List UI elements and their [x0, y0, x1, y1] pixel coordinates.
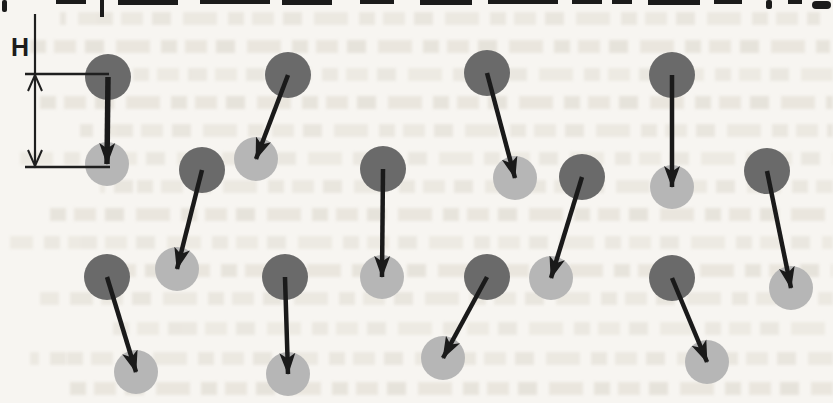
cropped-text-fragments — [2, 0, 831, 17]
particle-settling-diagram: H — [0, 0, 833, 403]
height-label: H — [11, 33, 29, 61]
displacement-arrow — [382, 169, 383, 277]
scanned-book-figure: H — [0, 0, 833, 403]
displacement-arrow — [107, 77, 108, 164]
arrows-layer — [107, 73, 791, 374]
displacement-arrow — [443, 277, 487, 358]
displacement-arrow — [285, 277, 288, 374]
